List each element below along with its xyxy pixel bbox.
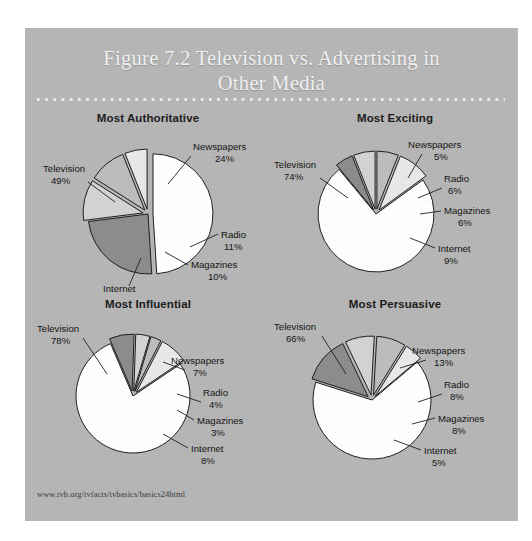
slice-label-value: 11% (224, 241, 243, 252)
figure-title: Figure 7.2 Television vs. Advertising in… (25, 46, 518, 96)
slice-label-name: Internet (424, 445, 457, 456)
chart-title: Most Influential (25, 298, 271, 310)
slice-label-value: 13% (434, 357, 454, 368)
slice-label-value: 5% (432, 457, 446, 468)
title-dotted-divider (37, 98, 505, 101)
slice-label-name: Radio (444, 379, 469, 390)
slice-label-name: Radio (444, 173, 469, 184)
slice-label-value: 8% (452, 425, 466, 436)
slice-label-name: Magazines (191, 259, 238, 270)
slice-label-name: Internet (438, 243, 471, 254)
figure-title-line-1: Figure 7.2 Television vs. Advertising in (25, 46, 518, 71)
slice-label-value: 5% (434, 151, 448, 162)
slice-label-value: 6% (448, 185, 462, 196)
chart-title: Most Exciting (272, 112, 518, 124)
slice-label-value: 8% (201, 455, 215, 466)
slice-label-value: 49% (51, 175, 71, 186)
slice-label-name: Newspapers (408, 139, 462, 150)
slice-label-value: 6% (115, 295, 129, 297)
slice-label-name: Television (274, 321, 316, 332)
slice-label-value: 7% (193, 367, 207, 378)
slice-label-value: 4% (209, 399, 223, 410)
slice-label-value: 10% (208, 271, 228, 282)
slice-label-name: Newspapers (193, 141, 247, 152)
slice-label-value: 6% (458, 217, 472, 228)
slice-label-name: Television (37, 323, 79, 334)
chart-cell-most-exciting: Most Exciting Television74%Newspapers5%R… (272, 112, 518, 297)
pie-chart: Television78%Newspapers7%Radio4%Magazine… (25, 312, 271, 483)
chart-title: Most Authoritative (25, 112, 271, 124)
slice-label-name: Magazines (444, 205, 491, 216)
pie-chart: Television74%Newspapers5%Radio6%Magazine… (272, 126, 518, 297)
pie-chart: Television66%Newspapers13%Radio8%Magazin… (272, 312, 518, 483)
pie-chart-grid: Most Authoritative Television49%Newspape… (25, 112, 518, 482)
chart-title: Most Persuasive (272, 298, 518, 310)
slice-label-name: Radio (203, 387, 228, 398)
slice-label-name: Internet (103, 283, 136, 294)
slice-label-value: 78% (51, 335, 71, 346)
pie-chart: Television49%Newspapers24%Radio11%Magazi… (25, 126, 271, 297)
slice-label-value: 3% (211, 427, 225, 438)
figure-title-line-2: Other Media (25, 71, 518, 96)
slice-label-value: 66% (286, 333, 306, 344)
slice-label-name: Magazines (197, 415, 244, 426)
slice-label-name: Newspapers (171, 355, 225, 366)
slice-label-value: 9% (444, 255, 458, 266)
slice-label-value: 24% (215, 153, 235, 164)
slice-label-name: Television (274, 159, 316, 170)
slice-label-name: Internet (191, 443, 224, 454)
slice-label-name: Newspapers (412, 345, 466, 356)
slice-label-name: Radio (221, 229, 246, 240)
slice-label-name: Magazines (438, 413, 485, 424)
source-url: www.tvb.org/tvfacts/tvbasics/basics24htm… (37, 490, 185, 499)
chart-cell-most-persuasive: Most Persuasive Television66%Newspapers1… (272, 298, 518, 483)
slice-label-value: 74% (284, 171, 304, 182)
chart-cell-most-influential: Most Influential Television78%Newspapers… (25, 298, 271, 483)
slice-label-value: 8% (450, 391, 464, 402)
chart-cell-most-authoritative: Most Authoritative Television49%Newspape… (25, 112, 271, 297)
slice-label-name: Television (43, 163, 85, 174)
figure-panel: Figure 7.2 Television vs. Advertising in… (25, 28, 518, 521)
